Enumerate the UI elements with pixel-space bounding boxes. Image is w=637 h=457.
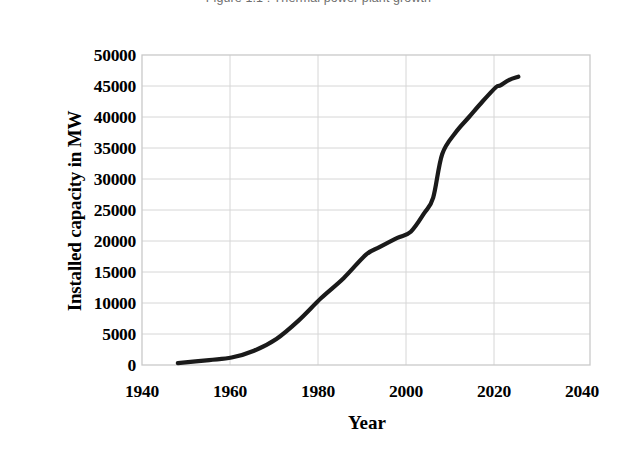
data-series-line [178, 77, 518, 363]
gridlines [142, 55, 590, 365]
figure-container: Figure 1.1 : Thermal power plant growth … [0, 0, 637, 457]
plot-area [0, 0, 637, 457]
